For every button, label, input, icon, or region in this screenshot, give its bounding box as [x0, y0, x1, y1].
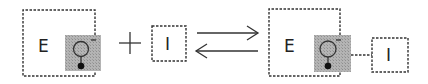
- complex-inhibitor-label: I: [386, 45, 391, 65]
- complex-active-site-region: [314, 35, 351, 72]
- enzyme-label: E: [38, 36, 49, 56]
- enzyme-inhibitor-complex: E I: [269, 9, 408, 76]
- free-enzyme: E: [23, 10, 101, 76]
- binding-site-dot-icon: [78, 63, 85, 70]
- complex-enzyme-label: E: [284, 36, 295, 56]
- equilibrium-arrows: [196, 26, 258, 58]
- enzyme-inhibitor-diagram: E I E I: [0, 0, 428, 84]
- free-inhibitor: I: [152, 26, 186, 61]
- forward-arrow-icon: [197, 26, 258, 40]
- plus-icon: [119, 32, 141, 54]
- reverse-arrow-icon: [196, 44, 258, 58]
- inhibitor-label: I: [165, 34, 170, 54]
- complex-binding-site-dot-icon: [325, 63, 332, 70]
